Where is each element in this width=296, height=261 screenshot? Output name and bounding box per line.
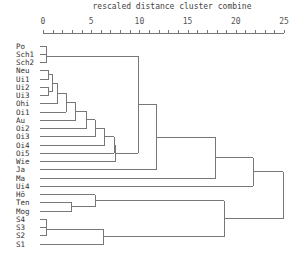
dendrogram-chart: rescaled distance cluster combine 051015… <box>0 0 296 261</box>
tick-label: 25 <box>279 17 289 26</box>
tick-label: 15 <box>183 17 193 26</box>
tick-label: 10 <box>135 17 145 26</box>
tick-label: 20 <box>231 17 241 26</box>
tick-label: 0 <box>41 17 46 26</box>
leaf-label: S1 <box>16 240 25 249</box>
dendrogram-links <box>40 46 283 244</box>
tick-label: 5 <box>89 17 94 26</box>
x-axis: 0510152025 <box>41 17 289 33</box>
chart-title: rescaled distance cluster combine <box>93 2 252 11</box>
leaf-labels: PoSch1Sch2NeuUi1Ui2Ui3OhiOi1AuOi2Oi3Oi4O… <box>16 42 34 249</box>
